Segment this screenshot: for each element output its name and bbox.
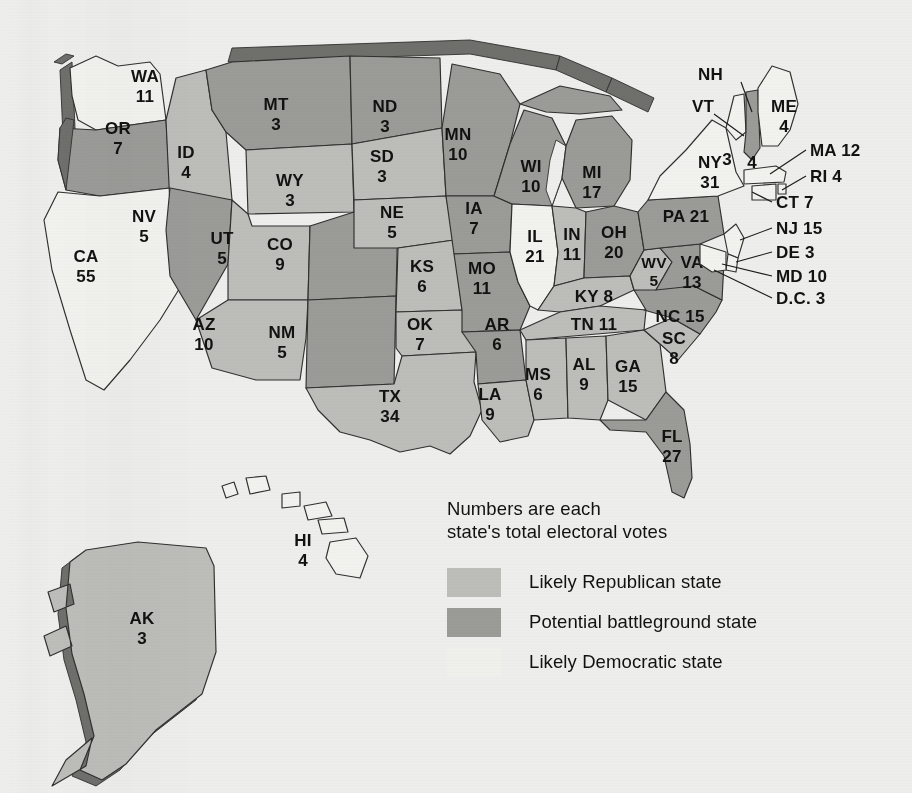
state-label-fl-abbr: FL (661, 427, 682, 446)
state-label-ak-abbr: AK (130, 609, 155, 628)
state-label-va-votes: 13 (682, 273, 701, 292)
state-label-mt-abbr: MT (264, 95, 289, 114)
state-label-ms-abbr: MS (525, 365, 551, 384)
state-label-vt-abbr: VT (692, 97, 715, 116)
state-label-wi-votes: 10 (521, 177, 540, 196)
state-label-ma: MA 12 (810, 141, 860, 160)
state-label-ny-abbr: NY (698, 153, 722, 172)
state-hawaii[interactable] (222, 476, 368, 578)
state-label-ks-votes: 6 (417, 277, 427, 296)
state-label-dc: D.C. 3 (776, 289, 825, 308)
state-label-ca-abbr: CA (74, 247, 99, 266)
state-label-il-votes: 21 (525, 247, 544, 266)
state-massachusetts[interactable] (744, 166, 786, 184)
state-label-sc-abbr: SC (662, 329, 686, 348)
state-label-mi-votes: 17 (582, 183, 601, 202)
legend-label-potential-battleground: Potential battleground state (529, 611, 757, 633)
legend-caption: Numbers are eachstate's total electoral … (447, 497, 827, 543)
state-alaska[interactable] (44, 542, 216, 786)
state-label-hi-votes: 4 (298, 551, 308, 570)
state-label-pa: PA 21 (663, 207, 709, 226)
state-label-wa-abbr: WA (131, 67, 159, 86)
state-label-nd-votes: 3 (380, 117, 390, 136)
state-label-ut-votes: 5 (217, 249, 227, 268)
state-label-wy-votes: 3 (285, 191, 295, 210)
state-label-ga-votes: 15 (618, 377, 637, 396)
state-new-jersey[interactable] (724, 224, 744, 258)
state-label-hi-abbr: HI (294, 531, 311, 550)
state-label-wa-votes: 11 (136, 87, 154, 106)
legend-item-likely-democratic[interactable]: Likely Democratic state (447, 642, 827, 682)
state-label-ia-abbr: IA (465, 199, 482, 218)
state-label-az-votes: 10 (194, 335, 213, 354)
state-delaware[interactable] (726, 254, 738, 272)
legend-swatch-likely-republican (447, 568, 501, 597)
state-label-nd-abbr: ND (373, 97, 398, 116)
state-label-tx-abbr: TX (379, 387, 402, 406)
legend-label-likely-democratic: Likely Democratic state (529, 651, 723, 673)
state-label-wv-abbr: WV (641, 254, 667, 271)
state-label-ut-abbr: UT (210, 229, 233, 248)
state-label-co-abbr: CO (267, 235, 293, 254)
state-label-or-abbr: OR (105, 119, 131, 138)
state-label-nc: NC 15 (655, 307, 704, 326)
state-label-ms-votes: 6 (533, 385, 543, 404)
state-label-mn-abbr: MN (445, 125, 472, 144)
state-label-nj: NJ 15 (776, 219, 822, 238)
state-label-la-votes: 9 (485, 405, 495, 424)
state-label-ar-votes: 6 (492, 335, 502, 354)
state-label-nv-votes: 5 (139, 227, 149, 246)
state-label-wy-abbr: WY (276, 171, 304, 190)
legend-caption-line2: state's total electoral votes (447, 521, 667, 542)
state-label-ia-votes: 7 (469, 219, 479, 238)
legend-swatch-likely-democratic (447, 648, 501, 677)
map-legend: Numbers are eachstate's total electoral … (447, 497, 827, 682)
state-label-wi-abbr: WI (520, 157, 541, 176)
legend-label-likely-republican: Likely Republican state (529, 571, 722, 593)
state-label-fl-votes: 27 (662, 447, 681, 466)
legend-item-likely-republican[interactable]: Likely Republican state (447, 562, 827, 602)
state-new-mexico[interactable] (306, 296, 396, 388)
state-label-tn: TN 11 (571, 315, 617, 334)
state-label-ca-votes: 55 (76, 267, 95, 286)
state-label-ok-abbr: OK (407, 315, 433, 334)
state-label-ga-abbr: GA (615, 357, 641, 376)
state-label-ct: CT 7 (776, 193, 814, 212)
state-label-co-votes: 9 (275, 255, 285, 274)
state-label-ks-abbr: KS (410, 257, 434, 276)
state-label-de: DE 3 (776, 243, 815, 262)
state-label-mn-votes: 10 (448, 145, 467, 164)
state-label-ne-abbr: NE (380, 203, 404, 222)
state-label-sc-votes: 8 (669, 349, 679, 368)
state-label-al-votes: 9 (579, 375, 589, 394)
state-label-ak-votes: 3 (137, 629, 147, 648)
state-label-me-votes: 4 (779, 117, 789, 136)
state-label-mo-abbr: MO (468, 259, 496, 278)
legend-item-potential-battleground[interactable]: Potential battleground state (447, 602, 827, 642)
state-label-id-abbr: ID (177, 143, 194, 162)
state-label-in-votes: 11 (563, 245, 581, 264)
state-label-in-abbr: IN (563, 225, 580, 244)
state-label-vt-votes: 3 (722, 150, 732, 169)
state-label-la-abbr: LA (478, 385, 501, 404)
state-label-nh-abbr: NH (698, 65, 723, 84)
state-label-ri: RI 4 (810, 167, 842, 186)
legend-rows: Likely Republican state Potential battle… (447, 562, 827, 682)
state-label-ky: KY 8 (575, 287, 613, 306)
state-label-mi-abbr: MI (582, 163, 601, 182)
state-label-sd-abbr: SD (370, 147, 394, 166)
state-label-oh-abbr: OH (601, 223, 627, 242)
state-label-nm-abbr: NM (269, 323, 296, 342)
state-label-sd-votes: 3 (377, 167, 387, 186)
state-label-oh-votes: 20 (604, 243, 623, 262)
state-label-nv-abbr: NV (132, 207, 156, 226)
state-label-ny-votes: 31 (700, 173, 719, 192)
state-label-me-abbr: ME (771, 97, 797, 116)
state-vermont[interactable] (726, 94, 746, 140)
state-label-ar-abbr: AR (485, 315, 510, 334)
state-kansas[interactable] (396, 240, 462, 312)
state-label-id-votes: 4 (181, 163, 191, 182)
state-label-ok-votes: 7 (415, 335, 425, 354)
legend-caption-line1: Numbers are each (447, 498, 601, 519)
state-label-az-abbr: AZ (192, 315, 215, 334)
